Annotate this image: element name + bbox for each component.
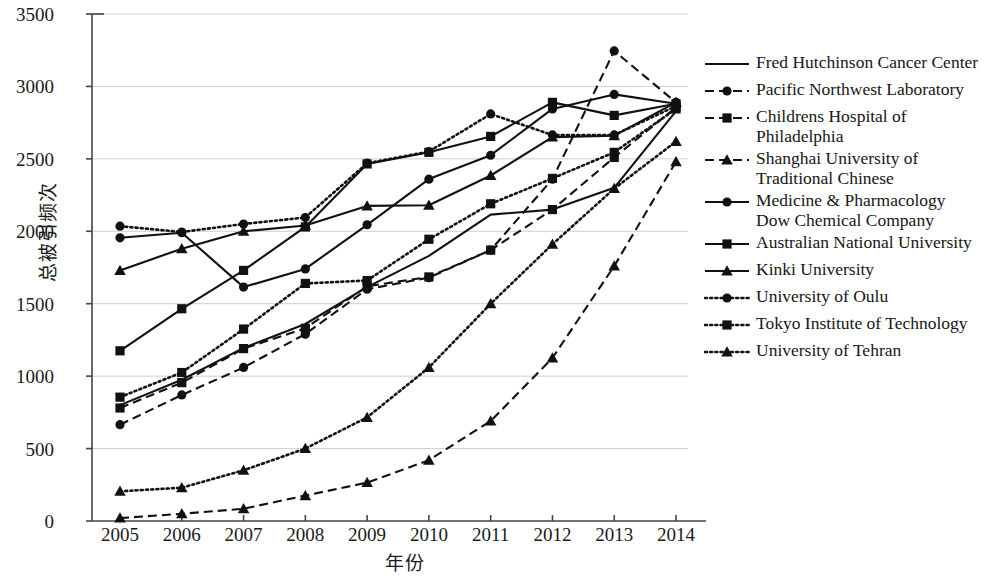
legend-item[interactable]: Medicine & Pharmacology Dow Chemical Com… bbox=[704, 190, 982, 230]
legend-label: Shanghai University of Traditional Chine… bbox=[756, 148, 982, 188]
data-point-square bbox=[239, 344, 248, 353]
legend-label: Fred Hutchinson Cancer Center bbox=[756, 52, 978, 72]
data-point-circle bbox=[486, 151, 495, 160]
data-point-circle bbox=[548, 130, 557, 139]
data-point-square bbox=[177, 378, 186, 387]
legend-swatch-triangle-icon bbox=[704, 262, 750, 284]
series-line bbox=[120, 106, 676, 232]
data-point-square bbox=[548, 174, 557, 183]
data-point-circle bbox=[486, 109, 495, 118]
legend-label: Australian National University bbox=[756, 232, 972, 252]
series-line bbox=[120, 107, 676, 408]
x-tick-label: 2014 bbox=[646, 524, 706, 546]
data-point-circle bbox=[177, 390, 186, 399]
data-point-circle bbox=[363, 159, 372, 168]
data-point-triangle bbox=[670, 156, 682, 166]
x-tick-label: 2007 bbox=[214, 524, 274, 546]
legend-swatch-square-icon bbox=[704, 235, 750, 257]
data-point-triangle bbox=[423, 454, 435, 464]
legend-item[interactable]: Australian National University bbox=[704, 232, 982, 257]
data-point-square bbox=[722, 320, 731, 329]
data-point-circle bbox=[610, 130, 619, 139]
legend-swatch-triangle-icon bbox=[704, 151, 750, 173]
chart-root: 0500100015002000250030003500 总被引频次 年份 Fr… bbox=[0, 0, 986, 581]
series-2 bbox=[115, 103, 680, 413]
legend-label: University of Tehran bbox=[756, 340, 901, 360]
series-line bbox=[120, 102, 676, 350]
legend-item[interactable]: University of Oulu bbox=[704, 286, 982, 311]
legend-swatch-circle-icon bbox=[704, 193, 750, 215]
data-point-circle bbox=[177, 227, 186, 236]
legend-label: Medicine & Pharmacology Dow Chemical Com… bbox=[756, 190, 982, 230]
legend-item[interactable]: Kinki University bbox=[704, 259, 982, 284]
x-tick-label: 2008 bbox=[275, 524, 335, 546]
data-point-triangle bbox=[485, 170, 497, 180]
data-point-circle bbox=[424, 147, 433, 156]
data-point-square bbox=[115, 403, 124, 412]
x-tick-label: 2013 bbox=[584, 524, 644, 546]
data-point-circle bbox=[610, 90, 619, 99]
data-point-square bbox=[548, 98, 557, 107]
x-tick-label: 2012 bbox=[522, 524, 582, 546]
data-point-circle bbox=[239, 363, 248, 372]
legend-swatch-circle-icon bbox=[704, 289, 750, 311]
series-line bbox=[120, 162, 676, 518]
series-line bbox=[120, 142, 676, 492]
x-tick-label: 2006 bbox=[152, 524, 212, 546]
data-point-square bbox=[424, 272, 433, 281]
data-point-triangle bbox=[300, 443, 312, 453]
legend-item[interactable]: Fred Hutchinson Cancer Center bbox=[704, 52, 982, 77]
data-point-triangle bbox=[670, 136, 682, 146]
data-point-circle bbox=[722, 197, 731, 206]
x-tick-label: 2010 bbox=[399, 524, 459, 546]
series-line bbox=[120, 102, 676, 270]
data-point-square bbox=[486, 246, 495, 255]
data-point-circle bbox=[722, 293, 731, 302]
legend-item[interactable]: Tokyo Institute of Technology bbox=[704, 313, 982, 338]
series-line bbox=[120, 94, 676, 287]
series-0 bbox=[120, 111, 676, 405]
data-point-square bbox=[239, 324, 248, 333]
legend-label: Kinki University bbox=[756, 259, 874, 279]
legend-swatch-circle-icon bbox=[704, 82, 750, 104]
legend-label: Tokyo Institute of Technology bbox=[756, 313, 968, 333]
data-point-circle bbox=[301, 264, 310, 273]
data-point-circle bbox=[363, 220, 372, 229]
data-point-square bbox=[115, 346, 124, 355]
data-point-triangle bbox=[300, 490, 312, 500]
data-point-triangle bbox=[608, 260, 620, 270]
x-tick-label: 2005 bbox=[90, 524, 150, 546]
data-point-square bbox=[301, 279, 310, 288]
data-point-circle bbox=[115, 222, 124, 231]
data-point-square bbox=[548, 205, 557, 214]
data-point-circle bbox=[424, 175, 433, 184]
data-point-square bbox=[424, 235, 433, 244]
series-7 bbox=[115, 101, 680, 236]
data-point-square bbox=[177, 368, 186, 377]
series-3 bbox=[114, 156, 682, 523]
series-8 bbox=[115, 104, 680, 401]
data-point-square bbox=[722, 239, 731, 248]
data-point-circle bbox=[722, 86, 731, 95]
legend-item[interactable]: University of Tehran bbox=[704, 340, 982, 365]
data-point-square bbox=[115, 393, 124, 402]
legend-item[interactable]: Shanghai University of Traditional Chine… bbox=[704, 148, 982, 188]
legend-label: Childrens Hospital of Philadelphia bbox=[756, 106, 982, 146]
legend-swatch-square-icon bbox=[704, 109, 750, 131]
data-point-square bbox=[177, 304, 186, 313]
legend-swatch-none-icon bbox=[704, 55, 750, 77]
legend-swatch-square-icon bbox=[704, 316, 750, 338]
legend-item[interactable]: Childrens Hospital of Philadelphia bbox=[704, 106, 982, 146]
legend-swatch-triangle-icon bbox=[704, 343, 750, 365]
x-tick-label: 2009 bbox=[337, 524, 397, 546]
series-9 bbox=[114, 136, 682, 496]
data-point-circle bbox=[301, 213, 310, 222]
legend: Fred Hutchinson Cancer CenterPacific Nor… bbox=[704, 52, 982, 367]
legend-label: Pacific Northwest Laboratory bbox=[756, 79, 964, 99]
data-point-square bbox=[486, 132, 495, 141]
data-point-square bbox=[671, 104, 680, 113]
data-point-circle bbox=[610, 46, 619, 55]
legend-item[interactable]: Pacific Northwest Laboratory bbox=[704, 79, 982, 104]
legend-label: University of Oulu bbox=[756, 286, 888, 306]
data-point-square bbox=[610, 148, 619, 157]
